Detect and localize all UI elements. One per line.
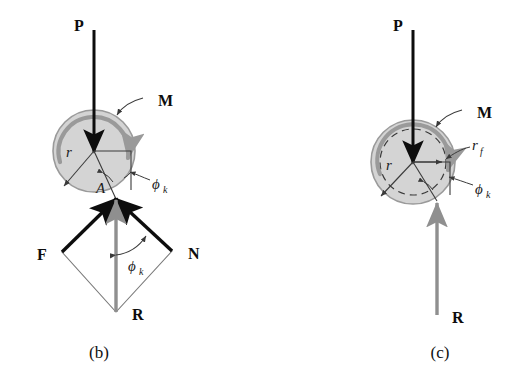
journal-bearing-friction-figure: P M r A ϕ k F N R ϕ k (b)	[0, 0, 505, 388]
label-radius-r-c: r	[386, 157, 392, 173]
label-contact-point-A-b: A	[95, 180, 106, 196]
label-moment-M-b: M	[158, 92, 173, 109]
label-friction-radius-glyph-c: r	[472, 137, 478, 153]
caption-panel-b: (b)	[89, 343, 109, 362]
figure-canvas: P M r A ϕ k F N R ϕ k (b)	[0, 0, 505, 388]
label-phi-top-glyph-b: ϕ	[152, 176, 160, 192]
label-phi-sub-c: k	[486, 189, 491, 200]
label-phi-top-sub-b: k	[163, 184, 168, 195]
label-friction-force-F-b: F	[37, 246, 47, 263]
label-phi-bottom-sub-b: k	[139, 266, 144, 277]
label-phi-bottom-glyph-b: ϕ	[128, 258, 136, 274]
label-moment-M-c: M	[477, 104, 492, 121]
label-load-P-c: P	[393, 17, 403, 34]
label-load-P-b: P	[74, 17, 84, 34]
caption-panel-c: (c)	[431, 343, 450, 362]
label-phi-glyph-c: ϕ	[475, 181, 483, 197]
label-normal-force-N-b: N	[188, 245, 200, 262]
label-resultant-R-c: R	[452, 309, 464, 326]
label-radius-r-b: r	[66, 144, 72, 160]
label-resultant-R-b: R	[132, 306, 144, 323]
